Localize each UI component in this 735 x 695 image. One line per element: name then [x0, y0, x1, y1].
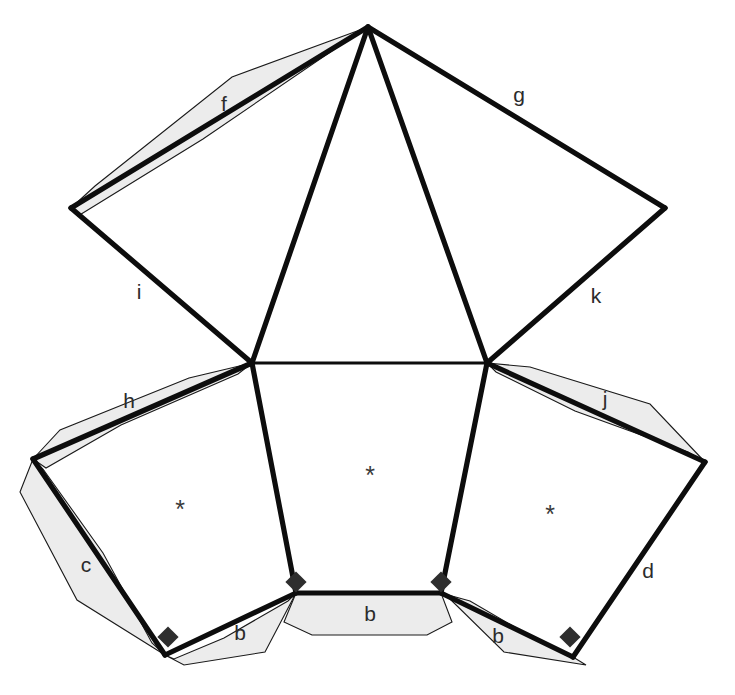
edge-label-h: h	[123, 389, 135, 412]
edge-label-d: d	[642, 559, 654, 582]
edge-label-b-left: b	[234, 621, 246, 644]
edge-label-k: k	[591, 284, 602, 307]
face-marker-left: *	[175, 495, 185, 523]
face-upper-kite	[71, 27, 665, 363]
edge-label-c: c	[81, 553, 92, 576]
face-marker-right: *	[545, 500, 555, 528]
edge-label-b-right: b	[492, 624, 504, 647]
edge-label-j: j	[602, 387, 608, 410]
edge-label-b-center: b	[364, 602, 376, 625]
net-diagram-canvas: f g i k h j c d b b b * * *	[0, 0, 735, 695]
polyhedron-net-figure: f g i k h j c d b b b * * *	[0, 0, 735, 695]
face-marker-center: *	[365, 461, 375, 489]
edge-label-g: g	[513, 83, 525, 106]
faces-group	[33, 27, 705, 657]
edge-label-i: i	[137, 280, 142, 303]
edge-label-f: f	[221, 92, 227, 115]
